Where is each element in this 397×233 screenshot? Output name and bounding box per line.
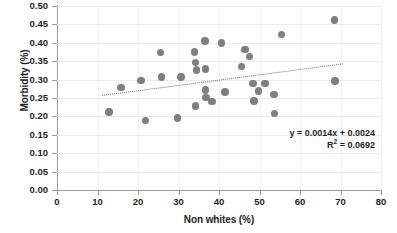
data-point (202, 86, 209, 93)
data-point (191, 48, 198, 55)
y-axis-tick-label: 0.05 (8, 166, 48, 177)
y-axis-tick-label: 0.00 (8, 184, 48, 195)
r-squared-value: = 0.0692 (337, 140, 375, 150)
data-point (250, 97, 257, 104)
data-point (137, 77, 144, 84)
data-point (331, 77, 338, 84)
y-axis-tick-label: 0.45 (8, 18, 48, 29)
x-axis-tick-label: 60 (282, 196, 318, 207)
data-point (208, 98, 215, 105)
gridline-vertical (341, 6, 342, 190)
y-axis-tick-label: 0.15 (8, 129, 48, 140)
data-point (261, 80, 268, 87)
y-axis-tick-label: 0.50 (8, 0, 48, 11)
data-point (238, 63, 245, 70)
y-axis-tick-label: 0.30 (8, 74, 48, 85)
data-point (142, 117, 149, 124)
x-axis-tick-label: 0 (39, 196, 75, 207)
regression-annotation: y = 0.0014x + 0.0024 R2 = 0.0692 (289, 128, 375, 151)
data-point (193, 66, 200, 73)
data-point (192, 59, 199, 66)
clipped-caption (0, 226, 397, 233)
gridline-vertical (260, 6, 261, 190)
data-point (202, 65, 209, 72)
x-axis-tick (381, 190, 382, 195)
x-axis-tick-label: 10 (80, 196, 116, 207)
x-axis-tick (98, 190, 99, 195)
x-axis-tick (57, 190, 58, 195)
plot-area (57, 6, 381, 190)
y-axis-tick-label: 0.35 (8, 55, 48, 66)
data-point (331, 16, 338, 23)
scatter-chart-figure: Morbidity (%) Non whites (%) 0.000.050.1… (0, 0, 397, 233)
y-axis-tick-label: 0.20 (8, 110, 48, 121)
data-point (157, 49, 164, 56)
data-point (105, 108, 112, 115)
x-axis-tick-label: 70 (323, 196, 359, 207)
x-axis-tick (138, 190, 139, 195)
data-point (192, 102, 199, 109)
x-axis-tick (219, 190, 220, 195)
data-point (278, 31, 285, 38)
r-squared-line: R2 = 0.0692 (289, 140, 375, 152)
data-point (218, 39, 225, 46)
gridline-vertical (219, 6, 220, 190)
gridline-vertical (179, 6, 180, 190)
y-axis-tick-label: 0.40 (8, 37, 48, 48)
x-axis-tick (179, 190, 180, 195)
data-point (201, 37, 208, 44)
data-point (246, 53, 253, 60)
gridline-vertical (300, 6, 301, 190)
y-axis-tick-label: 0.10 (8, 147, 48, 158)
data-point (221, 88, 228, 95)
regression-equation-line: y = 0.0014x + 0.0024 (289, 128, 375, 140)
data-point (255, 87, 262, 94)
x-axis-tick (300, 190, 301, 195)
data-point (117, 84, 124, 91)
y-axis-tick-label: 0.25 (8, 92, 48, 103)
data-point (249, 80, 256, 87)
gridline-vertical (138, 6, 139, 190)
data-point (177, 73, 184, 80)
x-axis-tick-label: 40 (201, 196, 237, 207)
data-point (158, 73, 165, 80)
x-axis-tick-label: 80 (363, 196, 397, 207)
x-axis-tick (341, 190, 342, 195)
gridline-vertical (381, 6, 382, 190)
gridline-vertical (98, 6, 99, 190)
x-axis-tick (260, 190, 261, 195)
x-axis-title: Non whites (%) (57, 214, 381, 225)
x-axis-tick-label: 30 (161, 196, 197, 207)
data-point (174, 114, 181, 121)
x-axis-tick-label: 20 (120, 196, 156, 207)
x-axis-tick-label: 50 (242, 196, 278, 207)
